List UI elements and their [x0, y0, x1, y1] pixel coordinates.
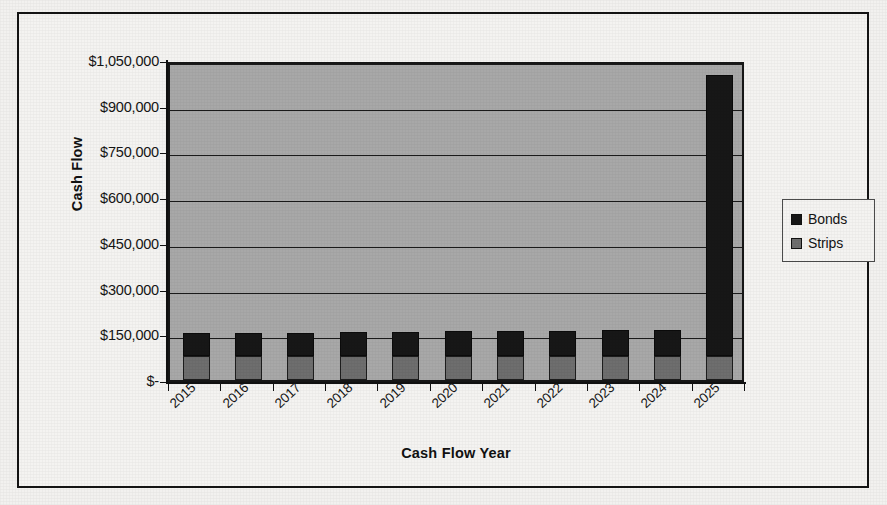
legend-swatch-icon [791, 214, 802, 225]
x-axis-tick [482, 384, 483, 391]
y-axis-tick-label: $150,000 [47, 328, 159, 343]
legend-label: Bonds [808, 211, 847, 227]
y-axis-tick [160, 245, 168, 246]
bar-group[interactable] [287, 333, 314, 380]
x-axis-tick [220, 384, 221, 391]
x-axis-tick [639, 384, 640, 391]
bar-segment-bonds[interactable] [392, 332, 419, 356]
legend-label: Strips [808, 235, 843, 251]
bar-segment-strips[interactable] [183, 356, 210, 380]
legend-swatch-icon [791, 238, 802, 249]
y-axis-tick [160, 291, 168, 292]
x-axis-tick-label: 2020 [429, 380, 461, 411]
gridline [170, 247, 742, 248]
bar-segment-bonds[interactable] [602, 330, 629, 356]
gridline [170, 64, 742, 65]
bar-segment-strips[interactable] [706, 356, 733, 380]
bar-segment-bonds[interactable] [235, 333, 262, 356]
x-axis-tick [430, 384, 431, 391]
y-axis-tick [160, 62, 168, 63]
y-axis-tick-label: $300,000 [47, 283, 159, 298]
bar-segment-bonds[interactable] [340, 332, 367, 356]
y-axis-tick [160, 199, 168, 200]
bar-group[interactable] [549, 331, 576, 380]
bar-segment-bonds[interactable] [706, 75, 733, 355]
x-axis-tick-label: 2025 [691, 380, 723, 411]
y-axis-tick [160, 108, 168, 109]
y-axis-tick-labels: $-$150,000$300,000$450,000$600,000$750,0… [41, 14, 159, 486]
bar-group[interactable] [445, 331, 472, 380]
bar-segment-bonds[interactable] [497, 331, 524, 356]
bar-group[interactable] [602, 330, 629, 380]
x-axis-tick [273, 384, 274, 391]
x-axis-tick-label: 2017 [272, 380, 304, 411]
bar-segment-strips[interactable] [340, 356, 367, 380]
x-axis-title: Cash Flow Year [168, 445, 744, 461]
bar-group[interactable] [340, 332, 367, 380]
bar-group[interactable] [183, 333, 210, 380]
bar-group[interactable] [497, 331, 524, 380]
x-axis-tick [587, 384, 588, 391]
x-axis-tick [325, 384, 326, 391]
bar-group[interactable] [235, 333, 262, 380]
y-axis-tick-label: $600,000 [47, 191, 159, 206]
plot-inner [170, 64, 742, 380]
bar-segment-bonds[interactable] [287, 333, 314, 356]
bar-segment-strips[interactable] [235, 356, 262, 380]
x-axis-tick [744, 384, 745, 391]
x-axis-tick-label: 2016 [219, 380, 251, 411]
bar-segment-strips[interactable] [392, 356, 419, 380]
chart-frame: Cash Flow $-$150,000$300,000$450,000$600… [17, 12, 869, 488]
y-axis-tick-label: $- [47, 374, 159, 389]
bar-segment-strips[interactable] [602, 356, 629, 380]
bar-segment-strips[interactable] [497, 356, 524, 380]
y-axis-tick-label: $900,000 [47, 100, 159, 115]
bar-segment-strips[interactable] [287, 356, 314, 380]
x-axis-tick-label: 2023 [586, 380, 618, 411]
bar-group[interactable] [392, 332, 419, 380]
bar-segment-bonds[interactable] [549, 331, 576, 356]
x-axis-tick-label: 2024 [638, 380, 670, 411]
legend-item[interactable]: Strips [791, 231, 874, 255]
y-axis-tick-label: $450,000 [47, 237, 159, 252]
gridline [170, 110, 742, 111]
legend-item[interactable]: Bonds [791, 207, 874, 231]
y-axis-tick-label: $750,000 [47, 145, 159, 160]
x-axis-tick-label: 2019 [376, 380, 408, 411]
x-axis-tick [168, 384, 169, 391]
y-axis-tick-label: $1,050,000 [47, 54, 159, 69]
bar-segment-strips[interactable] [445, 356, 472, 380]
chart-legend: BondsStrips [782, 199, 875, 262]
gridline [170, 201, 742, 202]
gridline [170, 293, 742, 294]
x-axis-tick-label: 2015 [167, 380, 199, 411]
y-axis-tick [160, 153, 168, 154]
bar-group[interactable] [706, 75, 733, 380]
bar-segment-bonds[interactable] [445, 331, 472, 355]
bar-segment-strips[interactable] [549, 356, 576, 380]
x-axis-tick [535, 384, 536, 391]
plot-area [168, 62, 744, 382]
bar-group[interactable] [654, 330, 681, 380]
scanned-page-background: Cash Flow $-$150,000$300,000$450,000$600… [0, 0, 887, 505]
bar-segment-bonds[interactable] [183, 333, 210, 356]
y-axis-tick [160, 336, 168, 337]
x-axis-tick-label: 2018 [324, 380, 356, 411]
gridline [170, 155, 742, 156]
x-axis-tick-label: 2022 [533, 380, 565, 411]
bar-segment-strips[interactable] [654, 356, 681, 380]
x-axis-tick [377, 384, 378, 391]
bar-segment-bonds[interactable] [654, 330, 681, 356]
x-axis-tick [692, 384, 693, 391]
x-axis-tick-label: 2021 [481, 380, 513, 411]
